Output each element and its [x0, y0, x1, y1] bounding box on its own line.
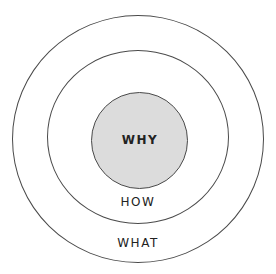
what-label: WHAT [88, 236, 188, 250]
why-label: WHY [90, 133, 190, 147]
how-label: HOW [88, 195, 188, 209]
